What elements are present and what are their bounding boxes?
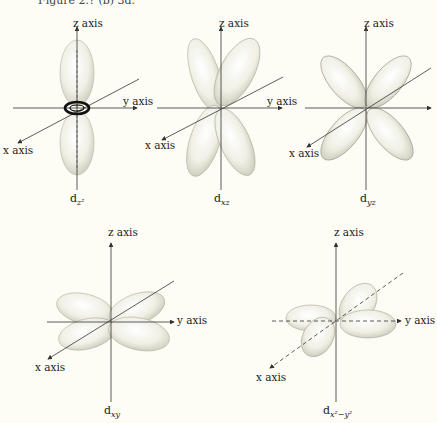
orbital-label-dyz: dyz [360, 193, 376, 207]
orbital-diagrams [0, 0, 437, 423]
panel-dxy [47, 243, 174, 402]
z-axis-label: z axis [219, 18, 249, 29]
orbital-label-dxy: dxy [104, 405, 120, 419]
y-axis-label: y axis [405, 315, 435, 326]
y-axis-label: y axis [267, 96, 297, 107]
orbital-label-dx2-y2: dx²−y² [323, 405, 352, 419]
y-axis-label: y axis [123, 96, 153, 107]
x-axis-label: x axis [3, 145, 33, 156]
panel-dxz [157, 27, 283, 190]
panel-dyz [305, 27, 431, 190]
orbital-label-dxz: dxz [214, 193, 230, 207]
panel-dx2-y2 [270, 243, 403, 402]
x-axis-label: x axis [289, 148, 319, 159]
z-axis-label: z axis [108, 227, 138, 238]
x-axis-label: x axis [35, 362, 65, 373]
z-axis-label: z axis [334, 227, 364, 238]
z-axis-label: z axis [364, 18, 394, 29]
x-axis-label: x axis [256, 372, 286, 383]
x-axis-label: x axis [145, 140, 175, 151]
z-axis-label: z axis [73, 18, 103, 29]
panel-dz2 [13, 27, 139, 190]
orbital-label-dz2: dz² [70, 193, 84, 207]
y-axis-label: y axis [177, 315, 207, 326]
